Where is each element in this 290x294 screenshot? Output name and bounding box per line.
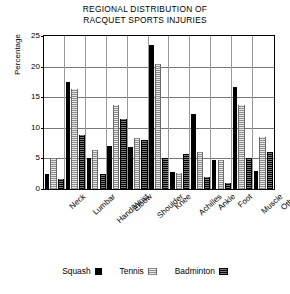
bar-group-ankle bbox=[190, 36, 211, 189]
chart-title: REGIONAL DISTRIBUTION OF RACQUET SPORTS … bbox=[0, 4, 290, 25]
chart-legend: SquashTennisBadminton bbox=[0, 266, 290, 276]
swatch-tennis-icon bbox=[148, 268, 157, 275]
bar-tennis-neck bbox=[50, 158, 56, 189]
legend-item-badminton: Badminton bbox=[175, 266, 228, 276]
legend-label-tennis: Tennis bbox=[120, 266, 144, 276]
bar-tennis-lumbar bbox=[71, 89, 77, 189]
bar-tennis-ankle bbox=[197, 152, 203, 189]
y-tick-label-5: 5 bbox=[20, 154, 40, 162]
y-tick-label-10: 10 bbox=[20, 124, 40, 132]
legend-item-tennis: Tennis bbox=[120, 266, 157, 276]
bar-tennis-muscle bbox=[238, 105, 244, 189]
bar-tennis-achilles bbox=[176, 173, 182, 189]
x-axis-labels: NeckLumbarHand/WristElbowShoulderKneeAch… bbox=[43, 192, 275, 244]
y-tick-label-20: 20 bbox=[20, 63, 40, 71]
bar-squash-lumbar bbox=[66, 82, 70, 189]
bar-tennis-shoulder bbox=[134, 138, 140, 189]
y-tick-label-0: 0 bbox=[20, 185, 40, 193]
x-tick-label-neck: Neck bbox=[68, 192, 88, 211]
bar-squash-hand-wrist bbox=[87, 158, 91, 189]
bar-group-foot bbox=[211, 36, 232, 189]
chart-title-line-1: REGIONAL DISTRIBUTION OF bbox=[0, 4, 290, 15]
bar-group-shoulder bbox=[128, 36, 149, 189]
y-tick-mark-0 bbox=[41, 189, 44, 190]
bar-squash-shoulder bbox=[128, 147, 132, 189]
legend-label-squash: Squash bbox=[62, 266, 90, 276]
y-axis-label: Percentage bbox=[13, 10, 22, 100]
y-tick-label-25: 25 bbox=[20, 32, 40, 40]
bar-tennis-knee bbox=[155, 64, 161, 189]
bar-group-neck bbox=[44, 36, 65, 189]
x-tick-label-elbow: Elbow bbox=[132, 192, 154, 213]
bar-group-lumbar bbox=[65, 36, 86, 189]
x-tick-label-foot: Foot bbox=[236, 192, 254, 209]
bar-squash-elbow bbox=[107, 146, 111, 189]
bar-squash-muscle bbox=[233, 87, 237, 189]
y-tick-label-15: 15 bbox=[20, 93, 40, 101]
bar-squash-ankle bbox=[191, 114, 195, 189]
bar-squash-knee bbox=[149, 45, 153, 189]
racquet-sports-injuries-chart: REGIONAL DISTRIBUTION OF RACQUET SPORTS … bbox=[0, 0, 290, 294]
bar-tennis-elbow bbox=[113, 105, 119, 189]
legend-item-squash: Squash bbox=[62, 266, 101, 276]
x-tick-label-lumbar: Lumbar bbox=[91, 192, 117, 217]
bar-group-elbow bbox=[107, 36, 128, 189]
swatch-badminton-icon bbox=[219, 268, 228, 275]
bar-tennis-hand-wrist bbox=[92, 150, 98, 189]
bar-squash-neck bbox=[45, 174, 49, 189]
bar-squash-other bbox=[254, 171, 258, 189]
chart-title-line-2: RACQUET SPORTS INJURIES bbox=[0, 15, 290, 26]
bar-squash-foot bbox=[212, 160, 216, 189]
bar-group-other bbox=[253, 36, 274, 189]
bar-group-hand-wrist bbox=[86, 36, 107, 189]
bar-tennis-foot bbox=[218, 160, 224, 189]
bar-group-muscle bbox=[232, 36, 253, 189]
bar-group-knee bbox=[149, 36, 170, 189]
bar-badminton-other bbox=[267, 152, 273, 189]
swatch-squash-icon bbox=[95, 268, 102, 275]
bar-group-achilles bbox=[169, 36, 190, 189]
plot-area: 0510152025 bbox=[43, 35, 275, 190]
legend-label-badminton: Badminton bbox=[175, 266, 215, 276]
bar-squash-achilles bbox=[170, 172, 174, 189]
bar-groups bbox=[44, 36, 274, 189]
bar-tennis-other bbox=[259, 137, 265, 189]
